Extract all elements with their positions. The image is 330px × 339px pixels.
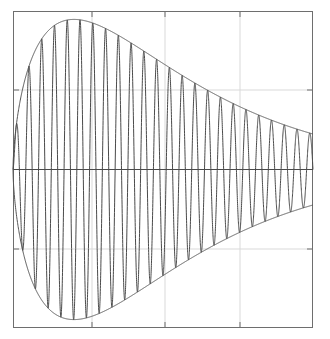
plot-svg	[0, 0, 330, 339]
figure-canvas	[0, 0, 330, 339]
